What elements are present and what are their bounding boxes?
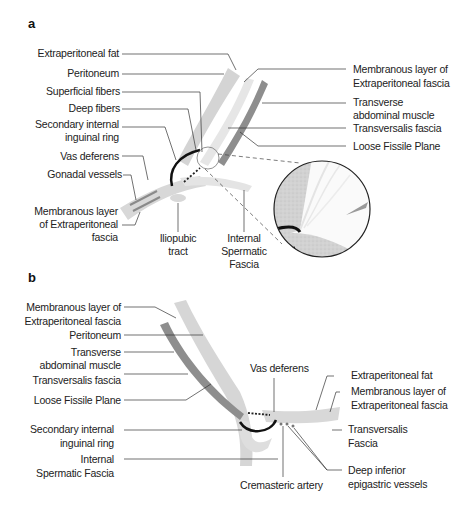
- label-membranous-right-line2: Extraperitoneal fascia: [353, 77, 450, 90]
- label-iliopubic-line1: Iliopubic: [153, 232, 203, 245]
- iliopubic-tract-shape: [170, 194, 186, 202]
- label-membranous-left-line1: Membranous layer: [34, 205, 118, 218]
- label-gonadal-vessels: Gonadal vessels: [47, 168, 122, 181]
- panel-a-letter: a: [28, 16, 35, 31]
- label-b-transversalis-right-line2: Fascia: [348, 437, 378, 450]
- label-b-secondary-ring-line1: Secondary internal: [30, 423, 114, 436]
- label-b-cremasteric-artery: Cremasteric artery: [240, 479, 323, 492]
- label-secondary-ring-line2: inguinal ring: [65, 131, 119, 144]
- label-loose-fissile-plane: Loose Fissile Plane: [353, 140, 440, 153]
- label-b-extraperitoneal-fat: Extraperitoneal fat: [351, 369, 432, 382]
- label-isf-line2: Spermatic: [214, 245, 274, 258]
- label-transverse-line1: Transverse: [353, 96, 403, 109]
- label-membranous-right-line1: Membranous layer of: [353, 63, 448, 76]
- label-b-transverse-line1: Transverse: [71, 346, 121, 359]
- label-b-membranous-line1: Membranous layer of: [26, 301, 121, 314]
- label-membranous-left-line3: fascia: [92, 231, 118, 244]
- label-extraperitoneal-fat: Extraperitoneal fat: [38, 47, 119, 60]
- label-isf-line3: Fascia: [214, 258, 274, 271]
- label-b-peritoneum: Peritoneum: [69, 329, 121, 342]
- label-deep-fibers: Deep fibers: [69, 102, 121, 115]
- label-b-membranous-right-line2: Extraperitoneal fascia: [351, 399, 448, 412]
- panel-b-letter: b: [28, 270, 36, 285]
- b-peritoneum-band: [174, 300, 253, 466]
- label-b-deep-inferior-line1: Deep inferior: [348, 464, 406, 477]
- label-b-transverse-line2: abdominal muscle: [40, 359, 121, 372]
- label-b-transversalis-fascia: Transversalis fascia: [33, 374, 121, 387]
- label-b-membranous-right-line1: Membranous layer of: [351, 385, 446, 398]
- label-transversalis-fascia: Transversalis fascia: [353, 122, 441, 135]
- label-b-isf-line2: Spermatic Fascia: [36, 467, 114, 480]
- extraperitoneal-lower: [180, 177, 252, 192]
- label-secondary-ring-line1: Secondary internal: [35, 118, 119, 131]
- label-membranous-left-line2: of Extraperitoneal: [39, 218, 118, 231]
- label-transverse-line2: abdominal muscle: [353, 109, 434, 122]
- label-b-membranous-line2: Extraperitoneal fascia: [24, 315, 121, 328]
- label-b-isf-line1: Internal: [81, 453, 114, 466]
- label-b-vas-deferens: Vas deferens: [250, 362, 309, 375]
- label-isf-line1: Internal: [214, 232, 274, 245]
- label-iliopubic-line2: tract: [153, 245, 203, 258]
- label-peritoneum: Peritoneum: [67, 67, 119, 80]
- label-vas-deferens: Vas deferens: [60, 150, 119, 163]
- label-superficial-fibers: Superficial fibers: [46, 85, 120, 98]
- label-b-deep-inferior-line2: epigastric vessels: [348, 478, 427, 491]
- panel-b-drawing: [124, 300, 342, 477]
- label-b-secondary-ring-line2: inguinal ring: [60, 437, 114, 450]
- label-b-loose-fissile-plane: Loose Fissile Plane: [34, 394, 121, 407]
- label-b-transversalis-right-line1: Transversalis: [348, 423, 407, 436]
